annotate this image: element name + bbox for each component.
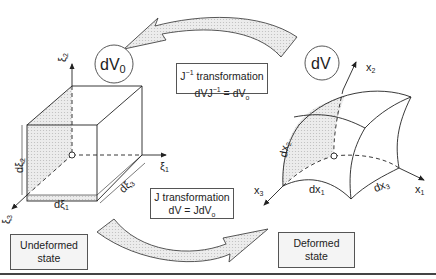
inverse-transformation-equation: dVJ−1 = dVo (177, 83, 267, 104)
dv-node: dV (305, 46, 339, 80)
dx1-label: dx1 (309, 183, 325, 196)
undeformed-state-line2: state (11, 252, 87, 265)
inverse-transformation-box: J−1 transformation dVJ−1 = dVo (176, 63, 268, 94)
xi2-axis-label: ξ2 (56, 53, 69, 62)
deformed-state-box: Deformed state (278, 232, 355, 268)
deformed-state-line2: state (279, 250, 354, 263)
dv0-node: dV0 (95, 45, 133, 83)
forward-transformation-box: J transformation dV = JdVo (150, 188, 234, 219)
dxi2-label: dξ2 (13, 158, 26, 173)
x3-axis-label: x3 (254, 184, 264, 197)
forward-transformation-equation: dV = JdVo (151, 204, 233, 221)
x1-axis-label: x1 (415, 183, 425, 196)
dxi3-label: dξ3 (117, 176, 137, 196)
inverse-transform-arrow (124, 17, 297, 57)
xi3-axis-label: ξ3 (0, 215, 13, 224)
dv-label: dV (311, 55, 331, 72)
forward-transform-arrow (97, 219, 268, 262)
xi1-axis-label: ξ1 (160, 160, 169, 173)
deformed-element (264, 62, 424, 205)
deformed-state-line1: Deformed (279, 237, 354, 250)
inverse-transformation-title: J−1 transformation (177, 66, 267, 83)
dx3-label: dx3 (372, 177, 391, 195)
undeformed-state-line1: Undeformed (11, 239, 87, 252)
bottom-rule (0, 273, 436, 275)
x2-axis-label: x2 (366, 61, 376, 74)
undeformed-cube (12, 64, 166, 209)
forward-transformation-title: J transformation (151, 191, 233, 204)
undeformed-state-box: Undeformed state (10, 234, 88, 270)
